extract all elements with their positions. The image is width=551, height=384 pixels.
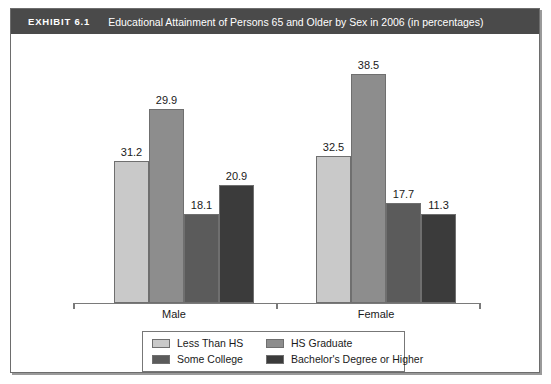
- bar-female-bachelors-or-higher[interactable]: [421, 214, 456, 303]
- bar-wrap: 11.3: [421, 33, 456, 303]
- exhibit-number: EXHIBIT 6.1: [28, 16, 90, 27]
- exhibit-title: Educational Attainment of Persons 65 and…: [108, 16, 483, 28]
- bar-group-male: 31.2 29.9 18.1 20.9: [114, 33, 254, 303]
- bar-value-label: 18.1: [178, 199, 225, 211]
- legend-swatch-hs-graduate: [266, 339, 284, 348]
- chart-legend: Less Than HS HS Graduate Some College Ba…: [142, 331, 405, 372]
- legend-swatch-bachelors-or-higher: [266, 355, 284, 364]
- legend-item-some-college[interactable]: Some College: [152, 353, 260, 365]
- bar-female-some-college[interactable]: [386, 203, 421, 303]
- bar-female-less-than-hs[interactable]: [316, 156, 351, 303]
- legend-label: Some College: [177, 353, 243, 365]
- legend-swatch-some-college: [152, 355, 170, 364]
- bar-wrap: 17.7: [386, 33, 421, 303]
- bar-wrap: 18.1: [184, 33, 219, 303]
- plot-area: 31.2 29.9 18.1 20.9 32.5: [73, 34, 481, 304]
- x-axis-tick-middle: [276, 304, 278, 309]
- chart-body: 31.2 29.9 18.1 20.9 32.5: [11, 34, 539, 372]
- bar-wrap: 38.5: [351, 33, 386, 303]
- legend-item-less-than-hs[interactable]: Less Than HS: [152, 337, 260, 349]
- legend-item-hs-graduate[interactable]: HS Graduate: [266, 337, 423, 349]
- bar-wrap: 32.5: [316, 33, 351, 303]
- exhibit-frame: EXHIBIT 6.1 Educational Attainment of Pe…: [10, 8, 540, 373]
- legend-label: HS Graduate: [291, 337, 352, 349]
- legend-label: Bachelor's Degree or Higher: [291, 353, 423, 365]
- legend-item-bachelors-or-higher[interactable]: Bachelor's Degree or Higher: [266, 353, 423, 365]
- legend-swatch-less-than-hs: [152, 339, 170, 348]
- bar-group-female: 32.5 38.5 17.7 11.3: [316, 33, 456, 303]
- bar-value-label: 11.3: [415, 199, 462, 211]
- x-axis-tick-left: [73, 304, 75, 309]
- bar-wrap: 20.9: [219, 33, 254, 303]
- bar-value-label: 31.2: [108, 146, 155, 158]
- bar-male-bachelors-or-higher[interactable]: [219, 185, 254, 303]
- x-axis-tick-right: [479, 304, 481, 309]
- bar-value-label: 38.5: [345, 59, 392, 71]
- bar-wrap: 29.9: [149, 33, 184, 303]
- bar-male-less-than-hs[interactable]: [114, 161, 149, 303]
- legend-label: Less Than HS: [177, 337, 243, 349]
- bar-value-label: 32.5: [310, 141, 357, 153]
- x-axis-label-female: Female: [316, 308, 436, 320]
- bar-value-label: 29.9: [143, 94, 190, 106]
- bar-value-label: 20.9: [213, 170, 260, 182]
- x-axis-label-male: Male: [114, 308, 234, 320]
- exhibit-header: EXHIBIT 6.1 Educational Attainment of Pe…: [11, 9, 539, 34]
- bar-wrap: 31.2: [114, 33, 149, 303]
- bar-male-some-college[interactable]: [184, 214, 219, 303]
